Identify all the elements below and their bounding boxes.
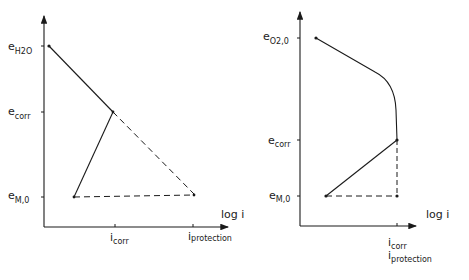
left-cathodic-line: [49, 46, 113, 112]
left-x-axis-label: log i: [221, 208, 244, 221]
right-label-eM0: eM,0: [269, 189, 290, 204]
left-anodic-line: [74, 112, 113, 197]
left-protection-line: [74, 195, 194, 197]
right-x-axis-label: log i: [426, 208, 449, 221]
right-anodic-line: [326, 140, 397, 196]
left-tick-iprotection: iprotection: [188, 230, 232, 243]
left-label-eM0: eM,0: [8, 189, 29, 205]
right-diagram: eO2,0 ecorr eM,0 log i icorr iprotection: [263, 12, 449, 264]
left-cathodic-extension: [113, 112, 194, 194]
left-tick-icorr: icorr: [110, 231, 130, 246]
left-label-eH2O: eH2O: [8, 40, 32, 56]
right-label-ecorr: ecorr: [268, 134, 291, 149]
right-cathodic-curve: [316, 38, 397, 140]
left-diagram: eH2O ecorr eM,0 log i icorr iprotection: [8, 16, 244, 246]
diagram-canvas: eH2O ecorr eM,0 log i icorr iprotection …: [0, 0, 469, 280]
right-label-eO2: eO2,0: [263, 30, 289, 46]
left-label-ecorr: ecorr: [8, 105, 31, 121]
right-tick-iprotection: iprotection: [388, 249, 432, 264]
